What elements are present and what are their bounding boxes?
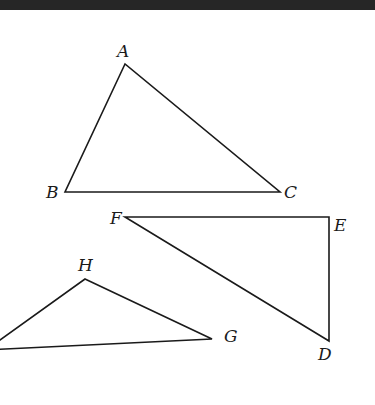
vertex-label-g: G — [224, 326, 238, 346]
vertex-label-a: A — [115, 41, 129, 61]
triangle-diagram: ABCFEDHG — [0, 0, 375, 405]
triangle-abc: ABC — [45, 41, 297, 202]
triangle-hg: HG — [0, 255, 238, 350]
vertex-label-c: C — [284, 182, 297, 202]
vertex-label-b: B — [45, 182, 59, 202]
vertex-label-f: F — [109, 208, 123, 228]
vertex-label-d: D — [317, 344, 332, 364]
vertex-label-h: H — [77, 255, 94, 275]
triangle-outline — [65, 64, 280, 192]
triangle-outline — [125, 217, 329, 341]
triangle-outline — [0, 279, 212, 350]
vertex-label-e: E — [333, 215, 347, 235]
